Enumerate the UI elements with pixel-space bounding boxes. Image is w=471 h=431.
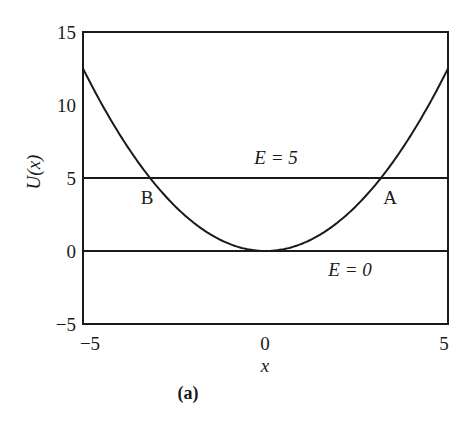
y-tick-minus5: −5 [56,314,76,335]
e0-label: E = 0 [327,259,372,280]
potential-energy-chart: 15 10 5 0 −5 −5 0 5 x U(x) E = 5 E = 0 A… [0,0,471,431]
y-tick-0: 0 [67,241,77,262]
y-tick-15: 15 [57,22,76,43]
x-tick-5: 5 [439,333,449,354]
point-b-label: B [141,187,154,208]
point-a-label: A [383,187,397,208]
y-axis-label: U(x) [23,155,45,190]
y-tick-5: 5 [67,168,77,189]
y-tick-10: 10 [57,95,76,116]
x-tick-minus5: −5 [80,333,100,354]
x-tick-0: 0 [260,333,270,354]
x-axis-label: x [260,355,270,376]
figure-caption: (a) [178,383,199,404]
e5-label: E = 5 [253,147,297,168]
